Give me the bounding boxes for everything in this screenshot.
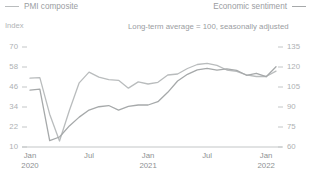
- series-line-economic-sentiment: [30, 67, 276, 141]
- chart-container: PMI composite Economic sentiment Index L…: [0, 0, 310, 178]
- plot-area: [0, 0, 310, 178]
